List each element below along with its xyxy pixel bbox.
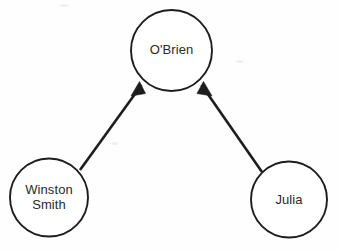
- arrow-head-julia: [197, 82, 212, 97]
- graph-svg: [0, 0, 339, 251]
- node-circle-obrien[interactable]: [131, 10, 212, 91]
- arrow-head-winston: [131, 82, 146, 97]
- node-circle-winston[interactable]: [10, 159, 88, 237]
- edge-line-winston: [80, 85, 142, 170]
- edge-winston-to-obrien: [80, 82, 146, 171]
- edge-line-julia: [202, 85, 263, 172]
- node-circle-julia[interactable]: [251, 162, 327, 238]
- diagram-canvas: O'Brien WinstonSmith Julia: [0, 0, 339, 251]
- edge-julia-to-obrien: [197, 82, 262, 173]
